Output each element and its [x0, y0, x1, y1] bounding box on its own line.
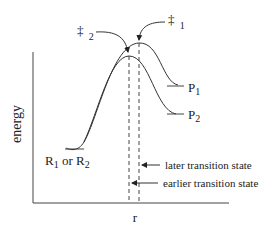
energy-profile-diagram: energy r ‡ 1 ‡ 2 P1 P2 R1 or R2 later tr… — [0, 0, 275, 230]
later-ts-annotation: later transition state — [165, 159, 252, 171]
ts1-label: ‡ 1 — [168, 12, 185, 31]
y-axis-label: energy — [9, 105, 24, 143]
earlier-ts-annotation: earlier transition state — [163, 177, 258, 189]
product-1-label: P1 — [188, 80, 200, 97]
curve-path-2 — [84, 56, 176, 142]
product-2-label: P2 — [188, 107, 200, 124]
reactant-label: R1 or R2 — [45, 153, 90, 170]
ts2-label: ‡ 2 — [77, 23, 94, 42]
ts1-arrow-icon — [139, 22, 165, 40]
ts2-arrow-icon — [96, 32, 128, 52]
x-axis-label: r — [133, 210, 138, 225]
